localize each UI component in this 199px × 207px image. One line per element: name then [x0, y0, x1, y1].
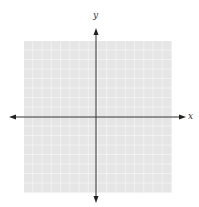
x-axis-left-arrow-icon: [9, 115, 16, 120]
coordinate-plane: [0, 0, 199, 207]
y-axis-up-arrow-icon: [94, 28, 99, 35]
y-axis-label: y: [93, 10, 98, 20]
y-axis-down-arrow-icon: [94, 196, 99, 203]
x-axis-label: x: [188, 111, 193, 121]
x-axis-right-arrow-icon: [179, 115, 186, 120]
